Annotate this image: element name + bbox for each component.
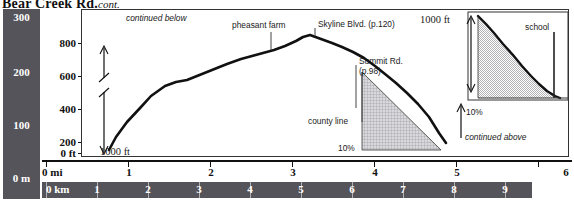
- label-grade-main: 10%: [338, 143, 355, 153]
- feet-tick-0: 0 ft: [42, 147, 76, 159]
- miles-label-6: 6: [563, 166, 569, 178]
- label-school: school: [525, 22, 549, 32]
- annotation-leader-lines: [271, 28, 362, 122]
- meters-axis-bar: 300 200 100 0 m: [3, 9, 40, 199]
- miles-label-1: 1: [126, 166, 132, 178]
- annotation-summit-rd: Summit Rd. (p.98): [359, 56, 403, 76]
- km-label-6: 6: [349, 183, 355, 195]
- km-label-8: 8: [451, 183, 457, 195]
- main-vertical-scale-bar: [99, 46, 109, 154]
- miles-label-2: 2: [208, 166, 214, 178]
- inset-frame: [468, 12, 568, 100]
- miles-label-0: 0 mi: [42, 166, 62, 178]
- inset-vertical-scale-bar: [467, 16, 475, 92]
- label-grade-inset: 10%: [466, 107, 483, 117]
- miles-axis-line: [42, 160, 572, 162]
- main-grade-wedge-fill: [362, 72, 441, 150]
- km-label-7: 7: [400, 183, 406, 195]
- km-label-2: 2: [145, 183, 151, 195]
- feet-tick-400: 400: [42, 103, 76, 115]
- miles-label-4: 4: [372, 166, 378, 178]
- km-label-3: 3: [196, 183, 202, 195]
- meters-tick-200: 200: [3, 66, 40, 78]
- km-label-9: 9: [502, 183, 508, 195]
- feet-tick-800: 800: [42, 37, 76, 49]
- km-axis-bar: [42, 182, 532, 198]
- plot-area: continued below pheasant farm Skyline Bl…: [81, 9, 569, 157]
- feet-tick-600: 600: [42, 70, 76, 82]
- annotation-continued-below: continued below: [126, 13, 187, 23]
- km-label-5: 5: [298, 183, 304, 195]
- annotation-continued-above: continued above: [465, 132, 526, 142]
- label-scale-inset: 1000 ft: [420, 15, 450, 25]
- annotation-summit-rd-line1: Summit Rd.: [359, 56, 403, 66]
- meters-tick-0: 0 m: [3, 172, 40, 184]
- km-label-0: 0 km: [46, 183, 70, 195]
- elevation-profile-line: [109, 35, 446, 150]
- annotation-skyline-blvd: Skyline Blvd. (p.120): [318, 19, 395, 29]
- label-scale-main: 1000 ft: [100, 147, 130, 157]
- elevation-profile-figure: Bear Creek Rd.cont. 300 200 100 0 m 800 …: [0, 0, 574, 215]
- miles-label-5: 5: [454, 166, 460, 178]
- km-label-1: 1: [94, 183, 100, 195]
- meters-tick-300: 300: [3, 11, 40, 23]
- annotation-pheasant-farm: pheasant farm: [232, 20, 286, 30]
- miles-label-3: 3: [290, 166, 296, 178]
- annotation-summit-rd-line2: (p.98): [359, 66, 403, 76]
- km-label-4: 4: [247, 183, 253, 195]
- inset-grade-arrow: [457, 104, 465, 138]
- annotation-county-line: county line: [308, 116, 348, 126]
- meters-tick-100: 100: [3, 119, 40, 131]
- miles-tickmark-6: [538, 162, 539, 167]
